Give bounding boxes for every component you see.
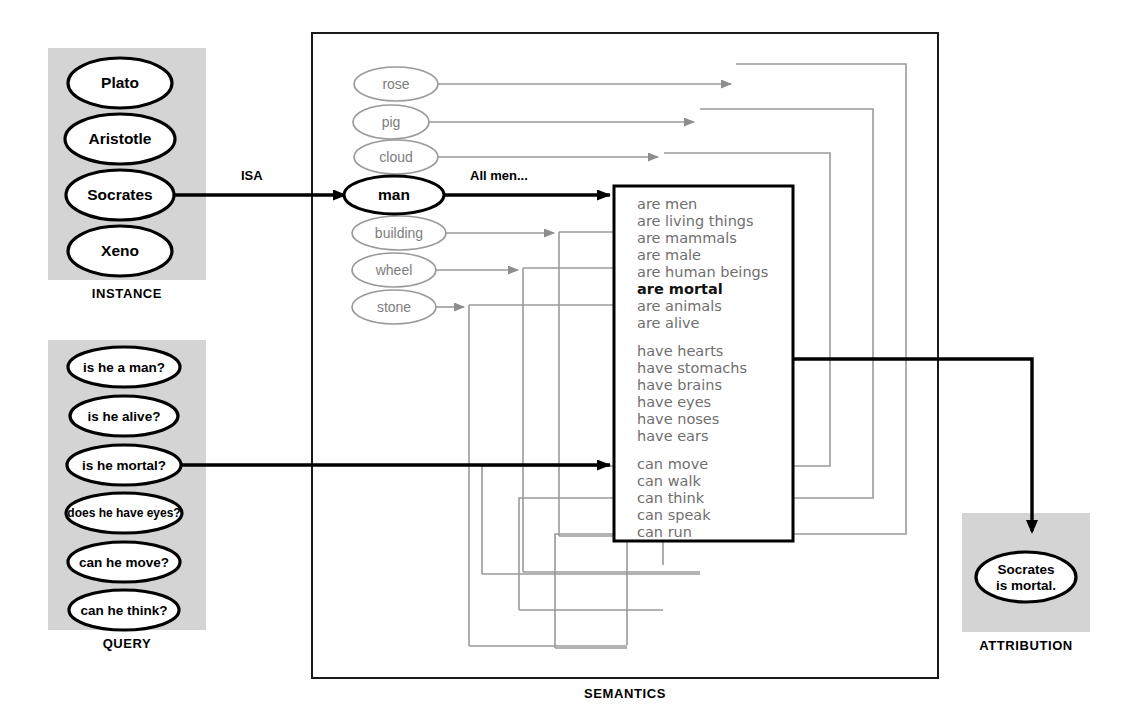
instance-item-label: Socrates (87, 186, 152, 203)
instance-item-plato[interactable]: Plato (68, 58, 172, 108)
query-item-label: is he a man? (83, 360, 165, 375)
instance-item-aristotle[interactable]: Aristotle (65, 114, 175, 164)
attribution-result[interactable]: Socrates is mortal. (976, 552, 1076, 602)
query-panel-label: QUERY (48, 636, 206, 651)
query-item-label: does he have eyes? (67, 506, 180, 520)
instance-panel-label: INSTANCE (48, 286, 206, 301)
query-item-can-he-think[interactable]: can he think? (69, 590, 179, 630)
query-item-label: can he move? (79, 555, 169, 570)
query-item-label: is he mortal? (82, 458, 166, 473)
instance-item-label: Aristotle (89, 130, 152, 147)
query-item-can-he-move[interactable]: can he move? (68, 542, 180, 582)
query-item-is-he-mortal[interactable]: is he mortal? (67, 445, 181, 485)
query-item-is-he-a-man[interactable]: is he a man? (68, 347, 180, 387)
query-item-is-he-alive[interactable]: is he alive? (70, 396, 178, 436)
entities-layer: Plato Aristotle Socrates Xeno is he a ma… (0, 0, 1143, 721)
instance-item-label: Plato (101, 74, 139, 91)
attribution-panel-label: ATTRIBUTION (952, 638, 1100, 653)
diagram-canvas: rose pig cloud building wheel stone (0, 0, 1143, 721)
instance-item-socrates[interactable]: Socrates (66, 170, 174, 220)
attribution-result-line2: is mortal. (996, 578, 1056, 593)
instance-item-xeno[interactable]: Xeno (68, 226, 172, 276)
query-item-label: can he think? (80, 603, 167, 618)
query-item-does-he-have-eyes[interactable]: does he have eyes? (66, 493, 182, 533)
isa-edge-label: ISA (241, 168, 263, 183)
instance-item-label: Xeno (101, 242, 139, 259)
query-item-label: is he alive? (88, 409, 161, 424)
all-men-edge-label: All men... (470, 168, 528, 183)
attribution-result-line1: Socrates (997, 562, 1054, 577)
semantics-panel-label: SEMANTICS (312, 686, 938, 701)
